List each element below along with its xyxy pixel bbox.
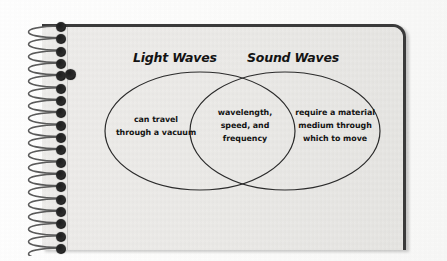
venn-title-sound-waves: Sound Waves xyxy=(247,50,339,65)
spiral-punch-hole xyxy=(56,84,66,94)
paper-hole-punch-mark xyxy=(65,69,76,80)
spiral-punch-hole xyxy=(56,121,66,131)
spiral-punch-hole xyxy=(56,158,66,168)
spiral-punch-hole xyxy=(56,170,66,180)
screenshot-root: Light Waves Sound Waves can travel throu… xyxy=(0,0,447,261)
venn-title-light-waves: Light Waves xyxy=(133,50,217,65)
spiral-punch-hole xyxy=(56,133,66,143)
page-margin-rule xyxy=(67,27,68,250)
spiral-punch-hole xyxy=(56,232,66,242)
spiral-punch-hole xyxy=(56,96,66,106)
spiral-punch-hole xyxy=(56,47,66,57)
venn-region-right-only-text: require a material medium through which … xyxy=(288,106,382,146)
spiral-punch-hole xyxy=(56,59,66,69)
spiral-punch-hole xyxy=(56,22,66,32)
spiral-punch-hole xyxy=(56,195,66,205)
spiral-punch-hole xyxy=(56,244,66,254)
spiral-punch-hole xyxy=(56,207,66,217)
venn-region-intersection-text: wavelength, speed, and frequency xyxy=(207,106,283,146)
venn-region-left-only-text: can travel through a vacuum xyxy=(108,113,204,139)
